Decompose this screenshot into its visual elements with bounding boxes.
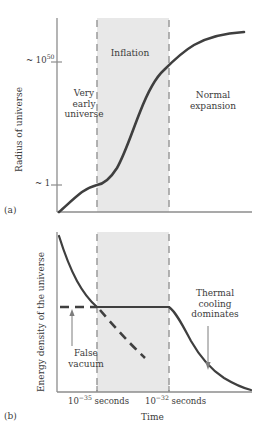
panel-a-y-axis-title: Radius of universe xyxy=(14,87,25,172)
very-early-line-2: early xyxy=(58,99,110,110)
inflation-cosmology-figure: Radius of universe ~ 1050 ~ 1 Very early… xyxy=(0,0,258,438)
normal-expansion-line-1: Normal xyxy=(176,90,250,101)
panel-b-y-axis-title: Energy density of the universe xyxy=(36,252,47,392)
very-early-line-1: Very xyxy=(58,88,110,99)
panel-a-ytick-1-label: ~ 1 xyxy=(35,178,50,188)
region-label-thermal-cooling: Thermal cooling dominates xyxy=(180,288,250,320)
ytick-exponent: 50 xyxy=(47,53,55,60)
region-label-inflation: Inflation xyxy=(104,48,156,59)
region-label-normal-expansion: Normal expansion xyxy=(176,90,250,111)
thermal-line-2: cooling xyxy=(180,299,250,310)
very-early-line-3: universe xyxy=(58,109,110,120)
false-vacuum-line-1: False xyxy=(62,348,110,359)
region-label-very-early-universe: Very early universe xyxy=(58,88,110,120)
x-axis-title: Time xyxy=(141,412,164,423)
thermal-line-1: Thermal xyxy=(180,288,250,299)
xtick-left-unit: seconds xyxy=(95,396,130,406)
xtick-right-exponent: −32 xyxy=(156,394,169,401)
panel-a-label: (a) xyxy=(4,205,16,216)
xtick-right-mantissa: 10 xyxy=(145,396,156,406)
false-vacuum-line-2: vacuum xyxy=(62,359,110,370)
panel-b-label: (b) xyxy=(4,411,17,422)
ytick-mantissa: ~ 10 xyxy=(26,55,47,65)
xtick-left-exponent: −35 xyxy=(79,394,92,401)
xtick-right-unit: seconds xyxy=(172,396,207,406)
xtick-label-right: 10−32 seconds xyxy=(145,396,206,406)
false-vacuum-arrowhead xyxy=(69,309,74,316)
xtick-left-mantissa: 10 xyxy=(68,396,79,406)
normal-expansion-line-2: expansion xyxy=(176,101,250,112)
thermal-line-3: dominates xyxy=(180,309,250,320)
region-label-false-vacuum: False vacuum xyxy=(62,348,110,369)
panel-a-ytick-1e50-label: ~ 1050 xyxy=(26,55,55,65)
xtick-label-left: 10−35 seconds xyxy=(68,396,129,406)
